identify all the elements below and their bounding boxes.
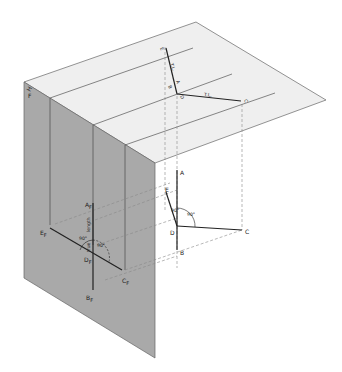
label-length: length [86, 217, 91, 232]
label-true: true [86, 242, 91, 252]
label-90-3d: 90° [187, 212, 195, 217]
label-e: E [165, 186, 169, 193]
object-labels: A B C D E 90° 90° [165, 169, 249, 256]
label-90-frontal-2: 90° [97, 243, 105, 248]
label-90-frontal-1: 90° [79, 236, 87, 241]
label-tl-2: T.L. [203, 92, 212, 98]
label-a: A [180, 169, 185, 176]
fold-label-f: F [28, 92, 32, 99]
label-90-small: 90° [171, 208, 179, 213]
line-dc [177, 226, 242, 230]
label-b: B [180, 249, 184, 256]
label-d: D [170, 229, 175, 236]
angle-arc-3d [177, 208, 195, 227]
label-c: C [245, 228, 249, 235]
descriptive-geometry-diagram: H F E B A D C T.L. T.L. A B C D E 90° 90… [0, 0, 342, 372]
